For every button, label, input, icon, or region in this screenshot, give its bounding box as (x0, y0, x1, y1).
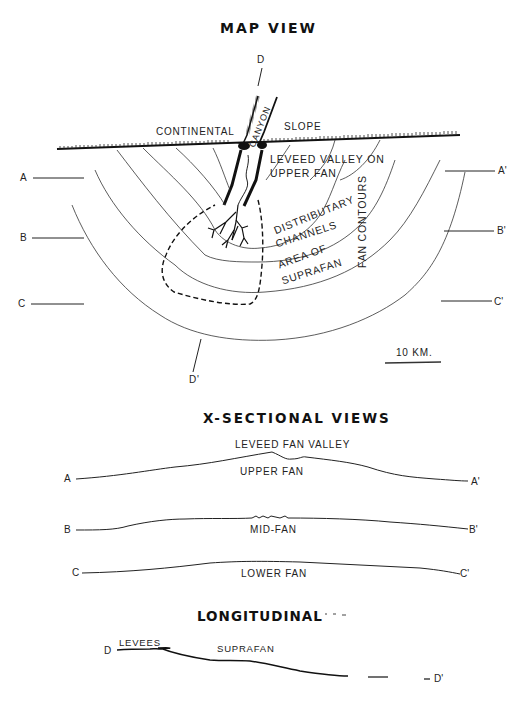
label-d-bottom: D' (189, 374, 200, 385)
label-leveed-valley-line1: LEVEED VALLEY ON (270, 153, 385, 165)
diagram-drawing (0, 0, 520, 701)
label-leveed-valley-line2: UPPER FAN (270, 167, 337, 179)
label-levees: LEVEES (119, 637, 161, 648)
profile-a-end: A' (471, 476, 480, 487)
section-lines (31, 171, 495, 304)
longitudinal-title: LONGITUDINAL (197, 608, 323, 624)
label-d-top: D (257, 54, 265, 65)
cross-section-title: X-SECTIONAL VIEWS (203, 410, 391, 426)
profile-a-start: A (64, 473, 71, 484)
map-view-title: MAP VIEW (220, 20, 317, 36)
profile-d-start: D (104, 645, 111, 656)
label-suprafan-longitudinal: SUPRAFAN (217, 643, 275, 654)
longitudinal-title-marks (325, 614, 346, 615)
profile-b-end: B' (469, 524, 478, 535)
leveed-valley (224, 150, 262, 206)
scale-bar-line (385, 362, 441, 363)
label-fan-contours: FAN CONTOURS (356, 175, 368, 268)
profile-d-end: D' (434, 673, 443, 684)
scale-bar-label: 10 KM. (396, 347, 432, 358)
section-label-a-prime: A' (498, 165, 507, 176)
label-slope: SLOPE (284, 121, 321, 132)
label-continental: CONTINENTAL (156, 126, 235, 137)
section-label-b-prime: B' (497, 225, 506, 236)
profile-b-start: B (64, 524, 71, 535)
profile-c-start: C (72, 567, 79, 578)
label-leveed-fan-valley: LEVEED FAN VALLEY (235, 439, 350, 450)
label-lower-fan: LOWER FAN (241, 568, 307, 579)
label-mid-fan: MID-FAN (250, 524, 297, 535)
section-label-c: C (18, 298, 25, 309)
section-line-d-top (258, 68, 262, 86)
profile-c-end: C' (460, 568, 469, 579)
section-label-b: B (20, 232, 27, 243)
fan-contours (72, 140, 465, 340)
section-label-a: A (20, 172, 27, 183)
section-label-c-prime: C' (494, 296, 503, 307)
section-line-d-bottom (193, 339, 201, 372)
suprafan-outline (162, 200, 263, 304)
label-upper-fan: UPPER FAN (240, 466, 304, 477)
